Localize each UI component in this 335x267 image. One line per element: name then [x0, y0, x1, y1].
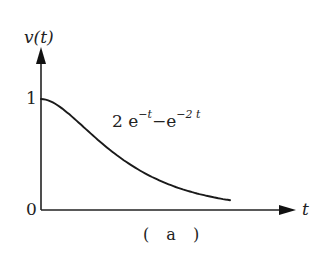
- eq-exp2: −2 t: [176, 108, 200, 121]
- y-tick-1: 1: [26, 88, 37, 108]
- curve-equation-annotation: 2 e−t−e−2 t: [112, 110, 200, 131]
- x-axis-arrow-icon: [279, 205, 296, 215]
- figure-caption: ( a ): [143, 225, 205, 244]
- eq-middle: −e: [152, 111, 176, 131]
- x-axis-label: t: [302, 199, 309, 219]
- y-tick-0: 0: [26, 199, 37, 219]
- y-axis-label-text: v(t): [24, 27, 54, 47]
- eq-exp1: −t: [138, 108, 152, 121]
- eq-base: 2 e: [112, 111, 138, 131]
- y-axis-arrow-icon: [36, 47, 46, 64]
- y-axis-label: v(t): [24, 27, 54, 47]
